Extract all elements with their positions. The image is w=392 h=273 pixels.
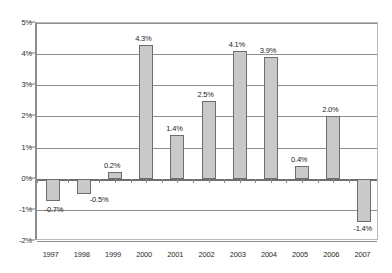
- bar: [108, 172, 122, 178]
- bar-value-label: 3.9%: [260, 46, 276, 55]
- gridline: [37, 241, 377, 242]
- bar-value-label: 0.2%: [104, 161, 120, 170]
- zero-line-tick: [271, 179, 272, 183]
- x-axis-tick-label: 1998: [74, 250, 90, 259]
- x-axis-tick-label: 2002: [199, 250, 215, 259]
- x-axis-tick-label: 2005: [292, 250, 308, 259]
- x-axis-tick-label: 1999: [105, 250, 121, 259]
- gridline: [37, 210, 377, 211]
- x-axis-tick-label: 2004: [261, 250, 277, 259]
- y-axis-tick-label: -1%: [2, 204, 32, 213]
- gridline: [37, 23, 377, 24]
- zero-line-tick: [146, 179, 147, 183]
- bar: [357, 179, 371, 223]
- x-axis-tick-label: 2007: [354, 250, 370, 259]
- x-axis-tick-label: 2000: [136, 250, 152, 259]
- bar: [139, 45, 153, 179]
- zero-line-tick: [209, 179, 210, 183]
- bar-value-label: 1.4%: [166, 124, 182, 133]
- y-axis-tick-label: 4%: [2, 49, 32, 58]
- zero-line-tick: [286, 179, 287, 183]
- zero-line-tick: [318, 179, 319, 183]
- bar: [77, 179, 91, 195]
- bar-value-label: 2.5%: [198, 90, 214, 99]
- zero-line-tick: [37, 179, 38, 183]
- x-axis-tick-label: 2003: [230, 250, 246, 259]
- bar: [264, 57, 278, 178]
- y-axis-tick-label: 5%: [2, 18, 32, 27]
- x-axis-tick-label: 2006: [323, 250, 339, 259]
- bar-value-label: 2.0%: [322, 105, 338, 114]
- zero-line-tick: [255, 179, 256, 183]
- plot-area: -0.7%-0.5%0.2%4.3%1.4%2.5%4.1%3.9%0.4%2.…: [35, 22, 378, 240]
- bar: [295, 166, 309, 178]
- zero-line-tick: [302, 179, 303, 183]
- bar-value-label: 4.3%: [135, 34, 151, 43]
- zero-line-tick: [193, 179, 194, 183]
- zero-line-tick: [162, 179, 163, 183]
- bar: [326, 116, 340, 178]
- zero-line-tick: [349, 179, 350, 183]
- bar: [170, 135, 184, 179]
- gridline: [37, 54, 377, 55]
- y-axis-tick-label: 0%: [2, 173, 32, 182]
- zero-line-tick: [177, 179, 178, 183]
- bar: [202, 101, 216, 179]
- y-axis-tick-label: -2%: [2, 236, 32, 245]
- zero-line-tick: [131, 179, 132, 183]
- zero-line-tick: [333, 179, 334, 183]
- bar: [233, 51, 247, 179]
- bar-value-label: -1.4%: [353, 224, 372, 233]
- gridline: [37, 85, 377, 86]
- bar-value-label: -0.5%: [90, 195, 109, 204]
- y-axis-tick-label: 3%: [2, 80, 32, 89]
- x-axis-tick-label: 2001: [167, 250, 183, 259]
- bar-value-label: 4.1%: [229, 40, 245, 49]
- bar-value-label: -0.7%: [45, 205, 64, 214]
- zero-line-tick: [68, 179, 69, 183]
- y-axis-tick-label: 2%: [2, 111, 32, 120]
- zero-line-tick: [99, 179, 100, 183]
- bar-chart: 5%4%3%2%1%0%-1%-2% -0.7%-0.5%0.2%4.3%1.4…: [0, 0, 392, 273]
- zero-line-tick: [224, 179, 225, 183]
- zero-line-tick: [240, 179, 241, 183]
- bar: [46, 179, 60, 201]
- y-axis-tick-label: 1%: [2, 142, 32, 151]
- bar-value-label: 0.4%: [291, 155, 307, 164]
- zero-line-tick: [115, 179, 116, 183]
- x-axis-tick-label: 1997: [43, 250, 59, 259]
